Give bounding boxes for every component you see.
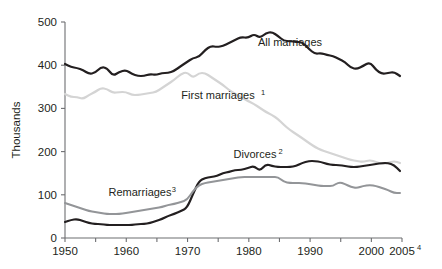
x-tick-label: 1990	[297, 245, 323, 257]
y-tick-label: 0	[51, 232, 57, 244]
series-label-all-marriages: All marriages	[258, 36, 323, 48]
x-tick-label-superscript: 4	[417, 243, 421, 252]
y-tick-label: 500	[38, 16, 57, 28]
x-tick-label: 1970	[175, 245, 201, 257]
y-tick-label: 100	[38, 189, 57, 201]
y-tick-label: 400	[38, 59, 57, 71]
series-line-first-marriages	[65, 73, 400, 164]
x-tick-label: 1980	[236, 245, 262, 257]
series-label-superscript: 3	[172, 185, 176, 194]
x-tick-label: 1950	[52, 245, 78, 257]
marriage-divorce-line-chart: 0100200300400500 19501960197019801990200…	[0, 0, 442, 269]
series-label-remarriages: Remarriages	[109, 186, 172, 198]
series-label-superscript: 1	[261, 88, 265, 97]
series-annotations: All marriagesFirst marriages1Divorces2Re…	[109, 36, 323, 198]
x-tick-label: 1960	[113, 245, 139, 257]
series-label-first-marriages: First marriages	[181, 89, 255, 101]
x-tick-label: 2005	[389, 245, 415, 257]
series-line-all-marriages	[65, 32, 400, 76]
x-axis-ticks: 19501960197019801990200020054	[52, 238, 421, 257]
x-tick-label: 2000	[359, 245, 385, 257]
y-tick-label: 200	[38, 146, 57, 158]
y-axis-ticks: 0100200300400500	[38, 16, 65, 244]
chart-container: 0100200300400500 19501960197019801990200…	[0, 0, 442, 269]
series-label-superscript: 2	[278, 147, 282, 156]
y-axis-title: Thousands	[10, 101, 22, 158]
series-label-divorces: Divorces	[234, 148, 277, 160]
y-tick-label: 300	[38, 102, 57, 114]
axes	[65, 22, 402, 238]
